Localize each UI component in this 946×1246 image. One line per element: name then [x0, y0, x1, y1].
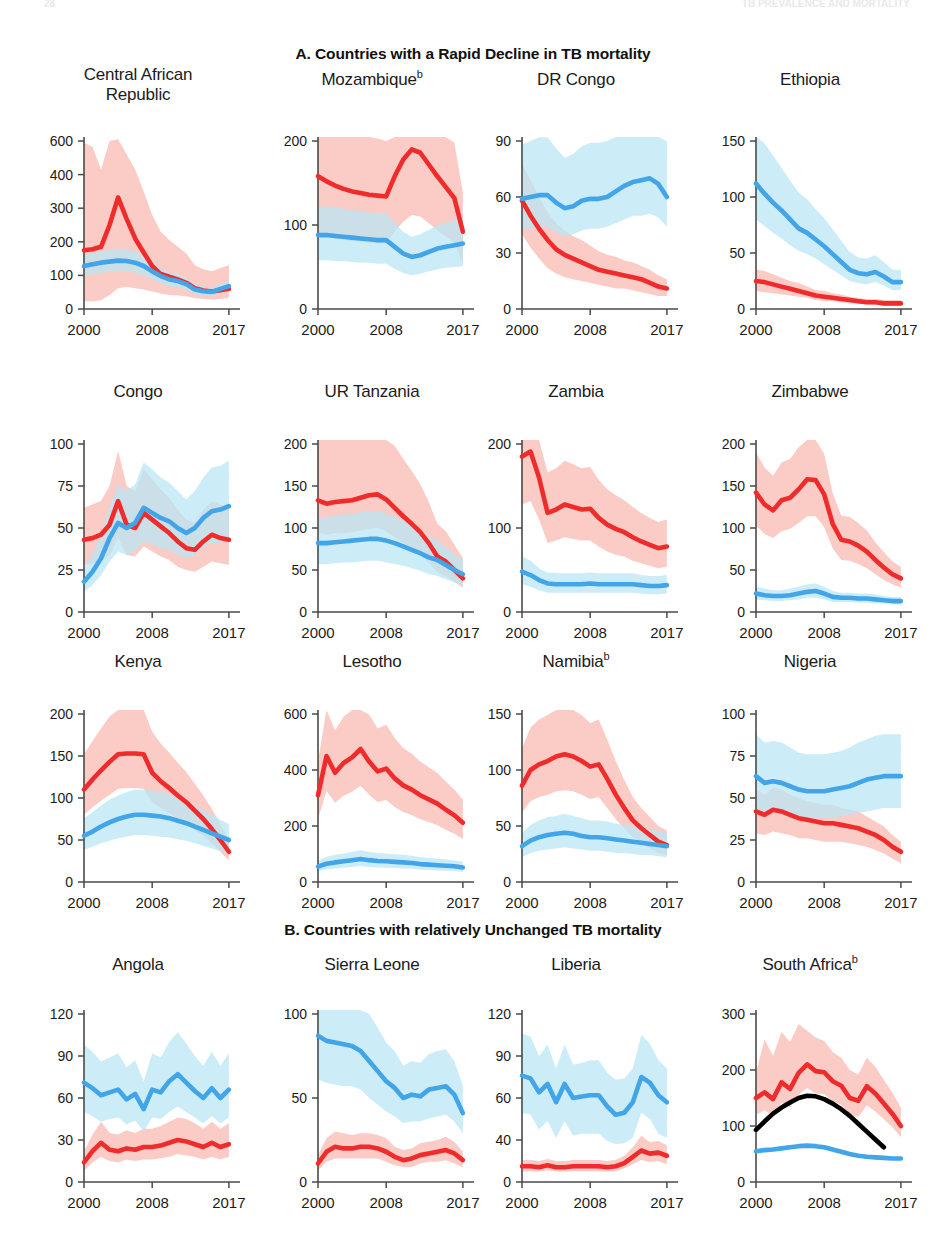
y-tick-label: 100	[488, 762, 512, 778]
y-tick-label: 200	[722, 1062, 746, 1078]
y-tick-label: 0	[737, 1174, 745, 1190]
chart-angola: 0306090120200020082017	[28, 1008, 254, 1222]
x-tick-label: 2000	[301, 1194, 334, 1211]
x-tick-label: 2000	[67, 1194, 100, 1211]
y-tick-label: 0	[65, 604, 73, 620]
section-b-title: B. Countries with relatively Unchanged T…	[0, 921, 946, 939]
panel-title-angola: Angola	[28, 955, 248, 975]
y-tick-label: 100	[722, 189, 746, 205]
y-tick-label: 100	[722, 706, 746, 722]
y-tick-label: 100	[284, 520, 308, 536]
x-tick-label: 2008	[135, 894, 168, 911]
x-tick-label: 2000	[505, 894, 538, 911]
section-a-title: A. Countries with a Rapid Decline in TB …	[0, 45, 946, 63]
x-tick-label: 2000	[67, 624, 100, 641]
y-tick-label: 50	[729, 562, 745, 578]
y-tick-label: 50	[729, 245, 745, 261]
x-tick-label: 2008	[135, 1194, 168, 1211]
chart-central-african-republic: 0100200300400600200020082017	[28, 135, 254, 349]
running-head: 28 TB PREVALENCE AND MORTALITY	[0, 0, 946, 14]
y-tick-label: 0	[299, 1174, 307, 1190]
x-tick-label: 2000	[301, 321, 334, 338]
y-tick-label: 100	[722, 1118, 746, 1134]
uncertainty-band-prevalence-blue	[522, 137, 667, 236]
y-tick-label: 50	[495, 818, 511, 834]
y-tick-label: 0	[299, 874, 307, 890]
panel-title-congo: Congo	[28, 382, 248, 402]
y-tick-label: 300	[722, 1006, 746, 1022]
x-tick-label: 2008	[135, 321, 168, 338]
x-tick-label: 2008	[807, 1194, 840, 1211]
y-tick-label: 50	[729, 790, 745, 806]
y-tick-label: 50	[291, 1090, 307, 1106]
panel-title-lesotho: Lesotho	[262, 652, 482, 672]
x-tick-label: 2008	[573, 1194, 606, 1211]
chart-zambia: 0100200200020082017	[466, 438, 692, 652]
uncertainty-band-mortality-red	[756, 1024, 901, 1137]
y-tick-label: 0	[299, 604, 307, 620]
y-tick-label: 200	[488, 436, 512, 452]
x-tick-label: 2017	[650, 321, 683, 338]
y-tick-label: 30	[495, 245, 511, 261]
x-tick-label: 2017	[650, 1194, 683, 1211]
y-tick-label: 300	[50, 200, 74, 216]
y-tick-label: 25	[729, 832, 745, 848]
y-tick-label: 200	[50, 234, 74, 250]
y-tick-label: 150	[722, 133, 746, 149]
series-line-prevalence-blue	[756, 1146, 901, 1159]
x-tick-label: 2000	[739, 624, 772, 641]
uncertainty-band-prevalence-blue	[84, 1032, 229, 1131]
y-tick-label: 200	[284, 436, 308, 452]
x-tick-label: 2008	[369, 624, 402, 641]
y-tick-label: 50	[291, 562, 307, 578]
x-tick-label: 2000	[505, 624, 538, 641]
uncertainty-band-prevalence-blue	[318, 511, 463, 586]
y-tick-label: 150	[50, 748, 74, 764]
x-tick-label: 2008	[369, 1194, 402, 1211]
y-tick-label: 200	[284, 133, 308, 149]
x-tick-label: 2017	[212, 321, 245, 338]
y-tick-label: 90	[495, 1048, 511, 1064]
y-tick-label: 50	[57, 520, 73, 536]
y-tick-label: 25	[57, 562, 73, 578]
x-tick-label: 2017	[884, 1194, 917, 1211]
y-tick-label: 50	[57, 832, 73, 848]
y-tick-label: 100	[284, 1006, 308, 1022]
chart-liberia: 0406090120200020082017	[466, 1008, 692, 1222]
x-tick-label: 2008	[573, 321, 606, 338]
x-tick-label: 2017	[650, 894, 683, 911]
footnote-marker: b	[417, 68, 423, 80]
x-tick-label: 2008	[135, 624, 168, 641]
y-tick-label: 100	[50, 436, 74, 452]
y-tick-label: 100	[50, 267, 74, 283]
chart-kenya: 050100150200200020082017	[28, 708, 254, 922]
uncertainty-band-prevalence-blue	[756, 137, 901, 290]
y-tick-label: 90	[57, 1048, 73, 1064]
panel-title-nigeria: Nigeria	[700, 652, 920, 672]
x-tick-label: 2000	[67, 894, 100, 911]
y-tick-label: 75	[57, 478, 73, 494]
y-tick-label: 200	[284, 818, 308, 834]
y-tick-label: 400	[50, 167, 74, 183]
y-tick-label: 0	[299, 301, 307, 317]
uncertainty-band-prevalence-blue	[318, 1010, 463, 1133]
x-tick-label: 2017	[884, 894, 917, 911]
panel-title-south-africa: South Africab	[700, 955, 920, 975]
x-tick-label: 2000	[739, 894, 772, 911]
panel-title-namibia: Namibiab	[466, 652, 686, 672]
chart-sierra-leone: 050100200020082017	[262, 1008, 488, 1222]
x-tick-label: 2000	[505, 1194, 538, 1211]
x-tick-label: 2000	[739, 321, 772, 338]
x-tick-label: 2017	[212, 624, 245, 641]
panel-title-ethiopia: Ethiopia	[700, 70, 920, 90]
panel-title-liberia: Liberia	[466, 955, 686, 975]
y-tick-label: 120	[50, 1006, 74, 1022]
panel-title-central-african-republic: Central AfricanRepublic	[28, 65, 248, 105]
y-tick-label: 100	[284, 217, 308, 233]
x-tick-label: 2000	[67, 321, 100, 338]
panel-title-mozambique: Mozambiqueb	[262, 70, 482, 90]
x-tick-label: 2008	[573, 624, 606, 641]
y-tick-label: 0	[503, 301, 511, 317]
y-tick-label: 150	[488, 706, 512, 722]
y-tick-label: 60	[495, 189, 511, 205]
